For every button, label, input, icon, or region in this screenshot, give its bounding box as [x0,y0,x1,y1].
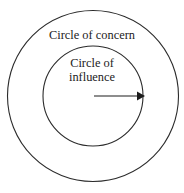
circle-of-influence-label-line1: Circle of [0,57,184,71]
circle-of-influence-label-line2: influence [0,71,184,85]
circle-of-concern-label: Circle of concern [0,29,184,43]
influence-arrow-head-icon [137,92,145,101]
circle-of-influence-label: Circle of influence [0,57,184,85]
circles-diagram: Circle of concern Circle of influence [0,0,184,193]
